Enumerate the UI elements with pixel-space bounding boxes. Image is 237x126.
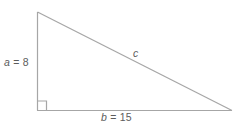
- leg-b-label: b = 15: [101, 112, 132, 123]
- leg-b-equals: =: [107, 111, 120, 123]
- triangle-drawing: [0, 0, 237, 126]
- hypotenuse-label: c: [133, 48, 138, 59]
- hypotenuse-variable: c: [133, 47, 138, 59]
- leg-a-value: 8: [23, 56, 29, 68]
- right-triangle-figure: a = 8 b = 15 c: [0, 0, 237, 126]
- leg-a-label: a = 8: [4, 57, 29, 68]
- leg-b-value: 15: [120, 111, 132, 123]
- hypotenuse-line: [38, 12, 233, 111]
- right-angle-square-icon: [38, 101, 47, 111]
- leg-a-equals: =: [10, 56, 23, 68]
